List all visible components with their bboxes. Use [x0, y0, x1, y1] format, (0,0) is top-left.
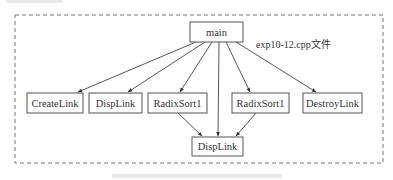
edge-main-radixsort1-right [226, 42, 250, 92]
clipped-header-text [6, 0, 62, 3]
edge-radixsort1-left-displink [178, 113, 202, 136]
edge-main-displink [128, 42, 205, 92]
clipped-caption-text [112, 174, 282, 178]
node-displink-bottom-label: DispLink [198, 141, 238, 152]
node-displink-label: DispLink [96, 98, 136, 109]
node-createlink-label: CreateLink [31, 98, 79, 109]
edge-main-radixsort1-left [180, 42, 212, 92]
node-destroylink-label: DestroyLink [306, 98, 360, 109]
node-radixsort1-left: RadixSort1 [148, 93, 207, 113]
node-displink-bottom: DispLink [192, 137, 243, 156]
edge-main-createlink [78, 42, 196, 92]
file-container-label: exp10-12.cpp文件 [256, 38, 331, 50]
node-main-label: main [206, 27, 228, 38]
edge-radixsort1-right-displink [236, 113, 256, 136]
node-radixsort1-right-label: RadixSort1 [237, 98, 285, 109]
edges [78, 42, 316, 136]
node-radixsort1-left-label: RadixSort1 [154, 98, 202, 109]
node-main: main [190, 22, 243, 42]
edge-main-displink-bottom [218, 42, 219, 136]
node-createlink: CreateLink [27, 93, 83, 113]
node-radixsort1-right: RadixSort1 [232, 93, 289, 113]
node-destroylink: DestroyLink [303, 93, 362, 113]
node-displink: DispLink [89, 93, 142, 113]
call-graph-diagram: exp10-12.cpp文件 main CreateLink DispLink … [0, 0, 393, 180]
